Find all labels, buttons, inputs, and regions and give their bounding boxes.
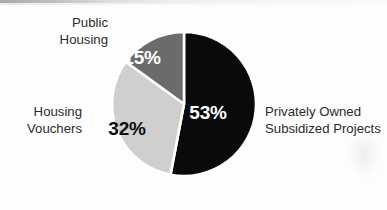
slice-value-housing-vouchers: 32% [108,119,145,138]
slice-value-privately-owned: 53% [189,103,226,122]
category-label-public-housing-line1: Public [8,14,108,31]
category-label-housing-vouchers: Housing Vouchers [2,103,82,138]
category-label-privately-owned-line1: Privately Owned [265,103,385,120]
slice-value-public-housing: 15% [123,48,160,67]
category-label-privately-owned-subsidized-projects: Privately Owned Subsidized Projects [265,103,385,138]
pie-chart-figure: 53% 32% 15% Public Housing Housing Vouch… [0,0,387,210]
category-label-privately-owned-line2: Subsidized Projects [265,120,385,137]
category-label-housing-vouchers-line1: Housing [2,103,82,120]
category-label-public-housing-line2: Housing [8,31,108,48]
category-label-public-housing: Public Housing [8,14,108,49]
category-label-housing-vouchers-line2: Vouchers [2,120,82,137]
